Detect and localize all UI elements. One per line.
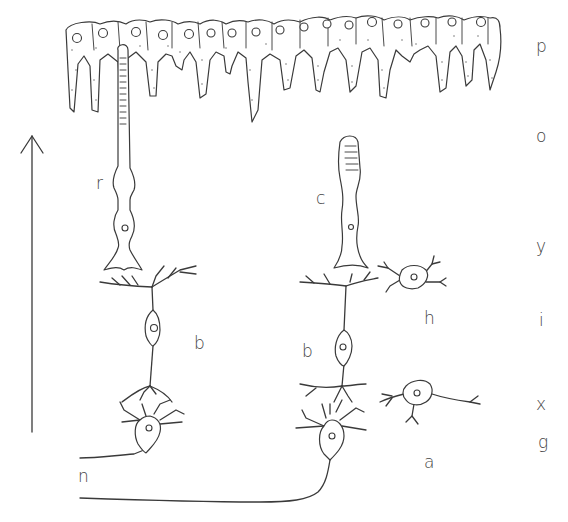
label-amacrine: a [424,454,434,471]
layer-label-y: y [536,238,546,255]
layer-label-o: o [536,128,546,145]
bipolar-cell-left [100,266,196,402]
layer-label-g: g [538,434,548,451]
label-bipolar-left: b [194,335,205,352]
layer-label-x: x [536,396,546,413]
label-nerve-fiber: n [78,468,89,485]
ganglion-cell-left [80,400,184,458]
label-bipolar-right: b [302,343,313,360]
cone-cell [334,136,368,268]
pigment-epithelium-layer [66,16,501,122]
amacrine-cell [380,380,480,424]
ganglion-cell-right [80,400,366,502]
rod-cell [104,45,142,270]
horizontal-cell [378,256,446,292]
retina-diagram [0,0,568,522]
layer-label-p: p [536,38,547,55]
bipolar-cell-right [300,272,378,402]
label-horizontal: h [424,310,435,327]
label-rod: r [96,175,103,192]
direction-arrow-icon [21,136,43,432]
label-cone: c [316,190,325,207]
layer-label-i: i [539,312,544,329]
